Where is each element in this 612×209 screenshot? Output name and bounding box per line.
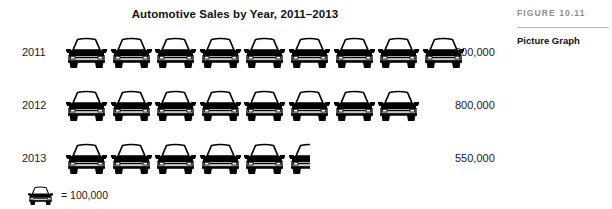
car-icon-half <box>289 143 310 174</box>
table-row: 2013 <box>0 142 500 176</box>
row-value-2012: 800,000 <box>455 99 495 111</box>
car-icon <box>289 37 330 68</box>
car-icon <box>244 37 285 68</box>
row-value-2011: 900,000 <box>455 46 495 58</box>
car-icon <box>334 37 375 68</box>
car-icon <box>378 90 419 121</box>
row-label-2012: 2012 <box>22 99 60 111</box>
car-icon <box>66 90 107 121</box>
divider <box>517 27 609 28</box>
car-icon <box>111 143 152 174</box>
chart-title: Automotive Sales by Year, 2011–2013 <box>0 8 470 20</box>
car-icon <box>244 143 285 174</box>
car-icon <box>111 37 152 68</box>
car-icon <box>66 37 107 68</box>
row-label-2011: 2011 <box>22 46 60 58</box>
row-label-2013: 2013 <box>22 152 60 164</box>
car-icon <box>289 90 330 121</box>
table-row: 2012 <box>0 89 500 123</box>
chart-legend: = 100,000 <box>28 184 108 206</box>
car-icon <box>334 90 375 121</box>
icon-track-2013 <box>66 142 334 176</box>
table-row: 2011 <box>0 36 500 70</box>
icon-track-2012 <box>66 89 423 123</box>
row-value-2013: 550,000 <box>455 152 495 164</box>
car-icon <box>155 90 196 121</box>
car-icon <box>200 90 241 121</box>
car-icon <box>111 90 152 121</box>
figure-sidebar: FIGURE 10.11 Picture Graph <box>512 0 612 209</box>
car-icon <box>28 186 53 205</box>
picture-graph-figure: Automotive Sales by Year, 2011–2013 2011 <box>0 0 500 209</box>
car-icon <box>378 37 419 68</box>
legend-label: = 100,000 <box>61 189 108 201</box>
figure-caption: Picture Graph <box>517 35 580 46</box>
car-icon <box>155 143 196 174</box>
figure-number: FIGURE 10.11 <box>517 8 585 18</box>
car-icon <box>200 37 241 68</box>
icon-track-2011 <box>66 36 467 70</box>
car-icon <box>200 143 241 174</box>
car-icon <box>155 37 196 68</box>
car-icon <box>66 143 107 174</box>
car-icon <box>244 90 285 121</box>
